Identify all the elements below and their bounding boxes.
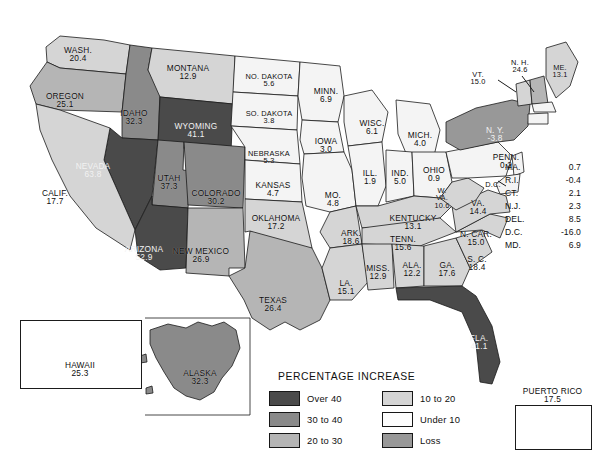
abbr-row-md: MD. 6.9 bbox=[505, 239, 597, 252]
abbr-value: 2.3 bbox=[539, 200, 581, 213]
legend-label: Under 10 bbox=[420, 414, 460, 425]
state-shape-in[interactable] bbox=[386, 150, 414, 202]
legend-swatch bbox=[382, 391, 413, 406]
legend-label: 30 to 40 bbox=[307, 414, 342, 425]
legend-item-loss[interactable]: Loss bbox=[382, 433, 495, 448]
map-figure: WASH.20.4 OREGON25.1 IDAHO32.3 MONTANA12… bbox=[0, 0, 602, 464]
legend-item-20-to-30[interactable]: 20 to 30 bbox=[269, 433, 382, 448]
state-shape-nm[interactable] bbox=[186, 208, 245, 276]
legend-label: Loss bbox=[420, 435, 441, 446]
state-shape-mn[interactable] bbox=[298, 62, 344, 122]
legend-swatch bbox=[269, 412, 300, 427]
abbr-value: 6.9 bbox=[539, 239, 581, 252]
legend-swatch bbox=[382, 412, 413, 427]
abbr-label: D.C. bbox=[505, 226, 539, 239]
abbr-label: MD. bbox=[505, 239, 539, 252]
state-shape-mo[interactable] bbox=[302, 152, 356, 212]
abbr-value: 8.5 bbox=[539, 213, 581, 226]
state-shape-mi[interactable] bbox=[396, 100, 440, 158]
state-shape-ma[interactable] bbox=[532, 102, 556, 112]
legend-swatch bbox=[382, 433, 413, 448]
abbr-label: N.J. bbox=[505, 200, 539, 213]
abbr-value: 2.1 bbox=[539, 187, 581, 200]
state-shape-mt[interactable] bbox=[148, 48, 235, 104]
abbr-value: -0.4 bbox=[539, 174, 581, 187]
state-abbreviation-list: MA. 0.7 R.I. -0.4 CT. 2.1 N.J. 2.3 DEL. … bbox=[505, 161, 597, 252]
state-shape-ak[interactable] bbox=[140, 322, 240, 400]
state-shape-me[interactable] bbox=[546, 42, 578, 98]
abbr-value: 0.7 bbox=[539, 161, 581, 174]
state-shape-fl[interactable] bbox=[396, 286, 500, 384]
abbr-row-ri: R.I. -0.4 bbox=[505, 174, 597, 187]
state-shape-co[interactable] bbox=[184, 142, 245, 208]
legend-swatch bbox=[269, 391, 300, 406]
abbr-label: MA. bbox=[505, 161, 539, 174]
abbr-value: -16.0 bbox=[539, 226, 581, 239]
state-shape-al[interactable] bbox=[392, 244, 424, 288]
state-shape-sd[interactable] bbox=[231, 92, 298, 130]
state-shape-la[interactable] bbox=[322, 244, 368, 300]
legend-label: Over 40 bbox=[307, 393, 342, 404]
map-legend: PERCENTAGE INCREASE Over 40 10 to 20 30 … bbox=[269, 371, 497, 451]
state-shape-ny[interactable] bbox=[446, 100, 530, 150]
legend-title: PERCENTAGE INCREASE bbox=[278, 371, 497, 382]
legend-swatch bbox=[269, 433, 300, 448]
abbr-row-nj: N.J. 2.3 bbox=[505, 200, 597, 213]
abbr-label: DEL. bbox=[505, 213, 539, 226]
legend-item-under-10[interactable]: Under 10 bbox=[382, 412, 495, 427]
legend-item-30-to-40[interactable]: 30 to 40 bbox=[269, 412, 382, 427]
legend-label: 20 to 30 bbox=[307, 435, 342, 446]
legend-item-10-to-20[interactable]: 10 to 20 bbox=[382, 391, 495, 406]
state-shape-ar[interactable] bbox=[320, 206, 362, 248]
abbr-label: R.I. bbox=[505, 174, 539, 187]
state-shape-ct-ri[interactable] bbox=[528, 113, 548, 124]
state-shape-ms[interactable] bbox=[362, 244, 394, 290]
abbr-row-ct: CT. 2.1 bbox=[505, 187, 597, 200]
state-shape-nd[interactable] bbox=[233, 56, 300, 96]
abbr-row-ma: MA. 0.7 bbox=[505, 161, 597, 174]
state-shape-ia[interactable] bbox=[300, 120, 344, 154]
state-shape-ks[interactable] bbox=[245, 160, 302, 202]
abbr-label: CT. bbox=[505, 187, 539, 200]
legend-item-over-40[interactable]: Over 40 bbox=[269, 391, 382, 406]
abbr-row-del: DEL. 8.5 bbox=[505, 213, 597, 226]
state-shape-wi[interactable] bbox=[344, 90, 388, 146]
state-shape-vt[interactable] bbox=[516, 80, 532, 106]
legend-label: 10 to 20 bbox=[420, 393, 455, 404]
hawaii-inset-frame bbox=[20, 320, 142, 389]
abbr-row-dc: D.C. -16.0 bbox=[505, 226, 597, 239]
puerto-rico-inset-frame bbox=[515, 405, 592, 450]
